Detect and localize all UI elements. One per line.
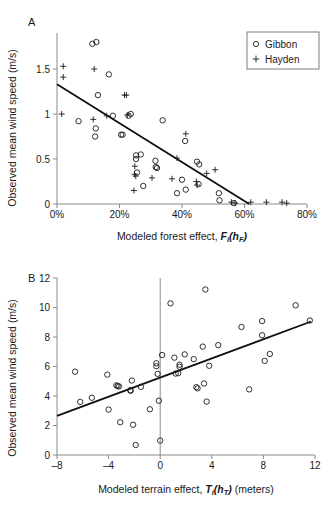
- panel-b-xtick-5: 12: [309, 460, 321, 471]
- data-point-circle: [216, 191, 221, 196]
- data-point-circle: [156, 398, 161, 403]
- panel-b-svg: B –8–404812024681012 Observed mean wind …: [0, 256, 334, 512]
- legend-label-gibbon: Gibbon: [265, 39, 297, 50]
- data-point-plus: [59, 111, 65, 117]
- data-point-circle: [133, 156, 138, 161]
- panel-a-xtick-1: 20%: [109, 209, 129, 220]
- data-point-circle: [129, 378, 134, 383]
- data-point-circle: [267, 351, 272, 356]
- panel-a-xlabel-text: Modeled forest effect, Fi(hF): [117, 230, 248, 244]
- panel-b-ytick-5: 10: [39, 302, 51, 313]
- data-point-circle: [105, 372, 110, 377]
- data-point-plus: [90, 116, 96, 122]
- legend: Gibbon Hayden: [247, 32, 319, 69]
- data-point-circle: [183, 187, 188, 192]
- data-point-circle: [204, 399, 209, 404]
- data-point-plus: [149, 175, 155, 181]
- panel-a-ytick-3: 1.5: [36, 64, 50, 75]
- data-point-plus: [132, 163, 138, 169]
- panel-b-ytick-0: 0: [44, 450, 50, 461]
- panel-a-trendline: [57, 84, 249, 204]
- panel-b-xlabel-suffix: (meters): [232, 483, 274, 495]
- data-point-circle: [106, 407, 111, 412]
- panel-b-xtick-3: 4: [209, 460, 215, 471]
- panel-a-ylabel-text: Observed mean wind speed (m/s): [6, 49, 18, 207]
- panel-a-ytick-2: 1: [44, 109, 50, 120]
- panel-b-xlabel-prefix: Modeled terrain effect,: [98, 483, 205, 495]
- data-point-plus: [169, 176, 175, 182]
- data-point-circle: [182, 138, 187, 143]
- panel-a-svg: A 0%20%40%60%80%00.511.5 Observed mean w…: [0, 0, 334, 256]
- data-point-circle: [201, 381, 206, 386]
- data-point-plus: [131, 188, 137, 194]
- legend-label-hayden: Hayden: [265, 54, 299, 65]
- data-point-circle: [76, 119, 81, 124]
- data-point-circle: [262, 358, 267, 363]
- panel-b-axes: –8–404812024681012: [39, 273, 321, 472]
- panel-a-ytick-1: 0.5: [36, 154, 50, 165]
- panel-b-trendline: [57, 322, 311, 416]
- data-point-circle: [172, 355, 177, 360]
- panel-a-xtick-2: 40%: [172, 209, 192, 220]
- data-point-circle: [168, 301, 173, 306]
- panel-b-xlabel: Modeled terrain effect, Ti(hT) (meters): [98, 483, 274, 497]
- data-point-circle: [110, 113, 115, 118]
- panel-b-ytick-2: 4: [44, 391, 50, 402]
- panel-b-series-gibbon: [72, 287, 312, 448]
- data-point-circle: [191, 356, 196, 361]
- data-point-plus: [91, 66, 97, 72]
- data-point-circle: [203, 287, 208, 292]
- data-point-circle: [195, 386, 200, 391]
- data-point-circle: [141, 183, 146, 188]
- data-point-circle: [200, 344, 205, 349]
- panel-b-ytick-1: 2: [44, 420, 50, 431]
- data-point-circle: [247, 387, 252, 392]
- data-point-plus: [193, 179, 199, 185]
- panel-a-ytick-0: 0: [44, 199, 50, 210]
- panel-b-regression-line: [57, 322, 311, 416]
- panel-a-xtick-3: 60%: [234, 209, 254, 220]
- data-point-plus: [60, 63, 66, 69]
- data-point-circle: [130, 422, 135, 427]
- panel-a-xlabel-prefix: Modeled forest effect,: [117, 230, 221, 242]
- data-point-circle: [174, 191, 179, 196]
- panel-b-xlabel-text: Modeled terrain effect, Ti(hT) (meters): [98, 483, 274, 497]
- data-point-circle: [133, 442, 138, 447]
- data-point-plus: [60, 74, 66, 80]
- data-point-circle: [216, 342, 221, 347]
- data-point-circle: [259, 333, 264, 338]
- panel-a-xlabel: Modeled forest effect, Fi(hF): [117, 230, 248, 244]
- panel-b-ylabel-text: Observed mean wind speed (m/s): [6, 299, 18, 457]
- panel-b-xtick-1: –4: [103, 460, 115, 471]
- data-point-circle: [89, 395, 94, 400]
- data-point-plus: [183, 131, 189, 137]
- data-point-circle: [118, 420, 123, 425]
- panel-a-ylabel: Observed mean wind speed (m/s): [6, 49, 18, 207]
- panel-b-xtick-0: –8: [51, 460, 63, 471]
- data-point-circle: [217, 198, 222, 203]
- panel-b-points: [72, 287, 312, 448]
- data-point-circle: [92, 134, 97, 139]
- panel-b-letter: B: [28, 272, 35, 284]
- data-point-circle: [72, 369, 77, 374]
- data-point-circle: [153, 158, 158, 163]
- data-point-circle: [155, 371, 160, 376]
- panel-a-xtick-4: 80%: [297, 209, 317, 220]
- panel-b-ytick-4: 8: [44, 332, 50, 343]
- data-point-circle: [78, 399, 83, 404]
- panel-b-chart: B –8–404812024681012 Observed mean wind …: [0, 256, 334, 512]
- data-point-circle: [182, 352, 187, 357]
- data-point-plus: [212, 167, 218, 173]
- panel-b-xtick-4: 8: [261, 460, 267, 471]
- panel-b-ylabel: Observed mean wind speed (m/s): [6, 299, 18, 457]
- data-point-circle: [95, 92, 100, 97]
- data-point-circle: [293, 303, 298, 308]
- panel-a-regression-line: [57, 84, 249, 204]
- data-point-circle: [147, 407, 152, 412]
- data-point-circle: [179, 177, 184, 182]
- data-point-circle: [239, 324, 244, 329]
- panel-a-chart: A 0%20%40%60%80%00.511.5 Observed mean w…: [0, 0, 334, 256]
- panel-b-xtick-2: 0: [157, 460, 163, 471]
- panel-a-letter: A: [28, 16, 36, 28]
- data-point-circle: [106, 72, 111, 77]
